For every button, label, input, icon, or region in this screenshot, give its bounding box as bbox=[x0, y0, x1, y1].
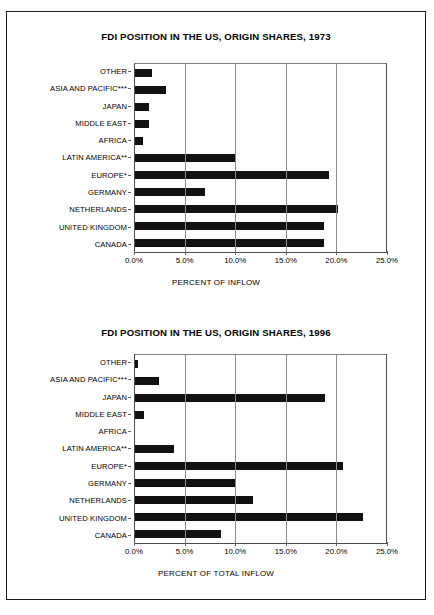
category-label: GERMANY bbox=[7, 475, 131, 492]
x-axis-title-1973: PERCENT OF INFLOW bbox=[7, 278, 425, 287]
y-tick-mark bbox=[128, 244, 131, 245]
y-tick-mark bbox=[128, 71, 131, 72]
category-axis-1996: OTHERASIA AND PACIFIC***JAPANMIDDLE EAST… bbox=[7, 354, 131, 544]
category-label: LATIN AMERICA** bbox=[7, 149, 131, 166]
bar-row bbox=[135, 458, 386, 475]
category-label: JAPAN bbox=[7, 98, 131, 115]
x-tick-label: 20.0% bbox=[325, 547, 347, 556]
bar-row bbox=[135, 509, 386, 526]
y-tick-mark bbox=[128, 431, 131, 432]
y-tick-mark bbox=[128, 535, 131, 536]
category-label: EUROPE* bbox=[7, 458, 131, 475]
y-tick-mark bbox=[128, 483, 131, 484]
bar bbox=[135, 394, 325, 402]
bar-row bbox=[135, 81, 386, 98]
chart-title-1973: FDI POSITION IN THE US, ORIGIN SHARES, 1… bbox=[7, 31, 425, 42]
y-tick-mark bbox=[128, 227, 131, 228]
category-label: NETHERLANDS bbox=[7, 492, 131, 509]
x-tick-mark bbox=[387, 251, 388, 255]
x-tick-mark bbox=[286, 251, 287, 255]
gridline bbox=[336, 64, 337, 252]
category-label: ASIA AND PACIFIC*** bbox=[7, 80, 131, 97]
plot-area-1973 bbox=[134, 63, 387, 253]
chart-1973: FDI POSITION IN THE US, ORIGIN SHARES, 1… bbox=[7, 12, 425, 308]
x-tick-mark bbox=[185, 251, 186, 255]
bar-rows-1996 bbox=[135, 355, 386, 543]
bar-row bbox=[135, 64, 386, 81]
category-label: GERMANY bbox=[7, 184, 131, 201]
bar bbox=[135, 137, 143, 145]
gridline bbox=[235, 355, 236, 543]
category-label: MIDDLE EAST bbox=[7, 406, 131, 423]
bar-row bbox=[135, 98, 386, 115]
category-label: OTHER bbox=[7, 354, 131, 371]
bar bbox=[135, 69, 152, 77]
category-label: ASIA AND PACIFIC*** bbox=[7, 371, 131, 388]
y-tick-mark bbox=[128, 500, 131, 501]
bar-row bbox=[135, 372, 386, 389]
bar bbox=[135, 513, 363, 521]
x-tick-mark bbox=[134, 542, 135, 546]
category-label: JAPAN bbox=[7, 389, 131, 406]
bar bbox=[135, 530, 221, 538]
y-tick-mark bbox=[128, 397, 131, 398]
x-tick-mark bbox=[134, 251, 135, 255]
plot-frame-1996 bbox=[134, 354, 387, 544]
y-tick-mark bbox=[128, 123, 131, 124]
bar bbox=[135, 86, 166, 94]
x-tick-mark bbox=[387, 542, 388, 546]
chart-1996: FDI POSITION IN THE US, ORIGIN SHARES, 1… bbox=[7, 308, 425, 599]
gridline bbox=[286, 64, 287, 252]
gridline bbox=[185, 355, 186, 543]
gridline bbox=[286, 355, 287, 543]
bar-row bbox=[135, 526, 386, 543]
x-axis-title-1996: PERCENT OF TOTAL INFLOW bbox=[7, 569, 425, 578]
x-tick-label: 0.0% bbox=[125, 547, 143, 556]
x-tick-label: 15.0% bbox=[275, 256, 297, 265]
x-tick-mark bbox=[336, 251, 337, 255]
category-label: UNITED KINGDOM bbox=[7, 218, 131, 235]
bar bbox=[135, 411, 144, 419]
bar-row bbox=[135, 355, 386, 372]
bar bbox=[135, 377, 159, 385]
x-tick-mark bbox=[185, 542, 186, 546]
y-tick-mark bbox=[128, 209, 131, 210]
y-tick-mark bbox=[128, 192, 131, 193]
x-tick-label: 10.0% bbox=[224, 547, 246, 556]
x-tick-label: 5.0% bbox=[176, 256, 194, 265]
plot-frame-1973 bbox=[134, 63, 387, 253]
bar bbox=[135, 239, 324, 247]
bar bbox=[135, 171, 329, 179]
bar-row bbox=[135, 389, 386, 406]
y-tick-mark bbox=[128, 157, 131, 158]
y-tick-mark bbox=[128, 448, 131, 449]
category-axis-1973: OTHERASIA AND PACIFIC***JAPANMIDDLE EAST… bbox=[7, 63, 131, 253]
bar-row bbox=[135, 406, 386, 423]
y-tick-mark bbox=[128, 88, 131, 89]
bar bbox=[135, 222, 324, 230]
bar bbox=[135, 120, 149, 128]
x-tick-label: 25.0% bbox=[376, 547, 398, 556]
category-label: CANADA bbox=[7, 527, 131, 544]
x-axis-ticks-1996: 0.0%5.0%10.0%15.0%20.0%25.0% bbox=[134, 547, 387, 561]
y-tick-mark bbox=[128, 466, 131, 467]
bar bbox=[135, 188, 205, 196]
bar-row bbox=[135, 201, 386, 218]
bar-row bbox=[135, 115, 386, 132]
bar-row bbox=[135, 218, 386, 235]
figure-page: FDI POSITION IN THE US, ORIGIN SHARES, 1… bbox=[0, 0, 434, 615]
bar bbox=[135, 103, 149, 111]
chart-title-1996: FDI POSITION IN THE US, ORIGIN SHARES, 1… bbox=[7, 327, 425, 338]
bar bbox=[135, 205, 338, 213]
x-tick-label: 25.0% bbox=[376, 256, 398, 265]
bar-row bbox=[135, 132, 386, 149]
bar-row bbox=[135, 423, 386, 440]
x-tick-mark bbox=[286, 542, 287, 546]
bar bbox=[135, 445, 174, 453]
plot-area-1996 bbox=[134, 354, 387, 544]
x-axis-ticks-1973: 0.0%5.0%10.0%15.0%20.0%25.0% bbox=[134, 256, 387, 270]
x-tick-mark bbox=[235, 542, 236, 546]
bar bbox=[135, 360, 138, 368]
category-label: CANADA bbox=[7, 236, 131, 253]
bar-row bbox=[135, 440, 386, 457]
